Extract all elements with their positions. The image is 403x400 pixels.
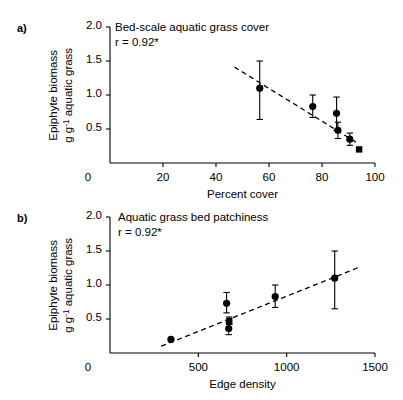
x-tick-label: 100: [345, 171, 403, 183]
data-point-circle: [346, 136, 353, 143]
chart-panel-b: b) Aquatic grass bed patchiness r = 0.92…: [0, 200, 403, 400]
data-point-circle: [272, 293, 279, 300]
x-tick-label: 80: [292, 171, 352, 183]
y-axis-title-line2: g g-1 aquatic grass: [60, 15, 76, 175]
x-tick-label: 40: [186, 171, 246, 183]
data-point-circle: [331, 275, 338, 282]
data-point-circle: [225, 325, 232, 332]
y-axis-title-line1: Epiphyte biomass: [47, 15, 60, 175]
data-point-circle: [333, 110, 340, 117]
data-point-square: [356, 146, 362, 152]
x-tick-label: 20: [133, 171, 193, 183]
y-axis-title-line1: Epiphyte biomass: [47, 205, 60, 365]
data-point-circle: [309, 103, 316, 110]
chart-title-b: Aquatic grass bed patchiness: [118, 211, 268, 223]
x-tick-label: 1500: [345, 361, 403, 373]
y-axis-title-line2: g g-1 aquatic grass: [60, 205, 76, 365]
trend-line: [161, 267, 359, 346]
y-axis-title: Epiphyte biomassg g-1 aquatic grass: [47, 205, 76, 365]
x-axis-title: Edge density: [110, 378, 375, 390]
annotation-b: Aquatic grass bed patchiness r = 0.92*: [118, 210, 268, 239]
y-axis-title: Epiphyte biomassg g-1 aquatic grass: [47, 15, 76, 175]
correlation-label-a: r = 0.92*: [115, 35, 269, 50]
data-point-circle: [334, 127, 341, 134]
annotation-a: Bed-scale aquatic grass cover r = 0.92*: [115, 20, 269, 49]
chart-panel-a: a) Bed-scale aquatic grass cover r = 0.9…: [0, 0, 403, 200]
x-tick-label: 1000: [257, 361, 317, 373]
x-axis-title: Percent cover: [110, 188, 375, 200]
figure-container: a) Bed-scale aquatic grass cover r = 0.9…: [0, 0, 403, 400]
data-point-circle: [167, 336, 174, 343]
x-tick-label: 60: [239, 171, 299, 183]
x-tick-label: 500: [168, 361, 228, 373]
chart-title-a: Bed-scale aquatic grass cover: [115, 21, 269, 33]
data-point-circle: [223, 300, 230, 307]
correlation-label-b: r = 0.92*: [118, 225, 268, 240]
data-point-circle: [256, 85, 263, 92]
